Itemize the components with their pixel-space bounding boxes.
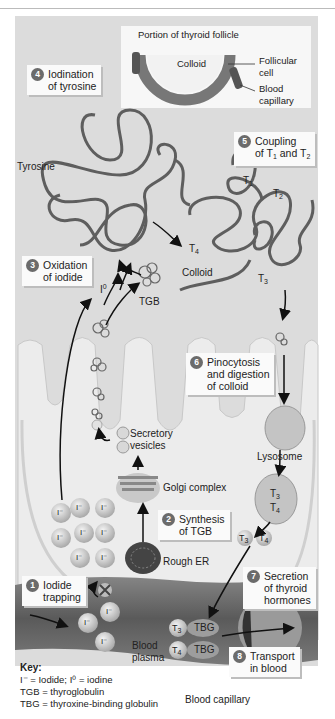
key-line: TBG = thyroxine-binding globulin bbox=[20, 698, 158, 710]
tbg-label-1: TBG bbox=[194, 622, 215, 634]
inset-blood-capillary-label: Blood capillary bbox=[259, 83, 294, 107]
iodide-glyph: I⁻ bbox=[101, 502, 107, 514]
rough-er-label: Rough ER bbox=[163, 556, 209, 568]
step-number-badge: 5 bbox=[238, 135, 251, 148]
step-1-iodide-trapping: 1 Iodidetrapping bbox=[22, 576, 86, 606]
step-number-badge: 2 bbox=[162, 513, 175, 526]
step-8-transport: 8 Transportin blood bbox=[229, 647, 300, 677]
key-line: TGB = thyroglobulin bbox=[20, 686, 158, 698]
golgi-complex bbox=[116, 473, 160, 503]
step-6-pinocytosis: 6 Pinocytosisand digestionof colloid bbox=[186, 353, 274, 395]
iodine-label: I0 bbox=[100, 281, 107, 296]
secretory-vesicle bbox=[117, 427, 129, 439]
iodide-transporter-icon bbox=[98, 583, 112, 597]
thyroid-hormone-synthesis-illustration bbox=[0, 0, 335, 719]
rough-er bbox=[125, 542, 161, 574]
key-line: I⁻ = Iodide; I⁰ = iodine bbox=[20, 674, 158, 686]
blood-plasma-label: Blood plasma bbox=[132, 640, 164, 664]
iodide-glyph: I⁻ bbox=[57, 532, 63, 544]
step-number-badge: 6 bbox=[190, 356, 203, 369]
golgi-complex-label: Golgi complex bbox=[163, 482, 226, 494]
secretory-vesicle bbox=[117, 441, 129, 453]
iodide-glyph: I⁻ bbox=[76, 552, 82, 564]
step-4-iodination: 4 Iodinationof tyrosine bbox=[27, 65, 101, 95]
tyrosine-label: Tyrosine bbox=[17, 161, 55, 173]
step-number-badge: 7 bbox=[247, 570, 260, 583]
t3-blood-label: T3 bbox=[172, 622, 181, 637]
step-2-synthesis: 2 Synthesisof TGB bbox=[158, 510, 230, 540]
thyroglobulin-chain-left bbox=[42, 110, 190, 251]
t3-ball-label: T3 bbox=[239, 532, 248, 547]
step-3-oxidation: 3 Oxidationof iodide bbox=[22, 256, 92, 286]
step-number-badge: 1 bbox=[26, 579, 39, 592]
iodide-glyph: I⁻ bbox=[101, 527, 107, 539]
t3-t4-vesicle-label: T3 T4 bbox=[270, 488, 280, 516]
step-7-secretion: 7 Secretionof thyroidhormones bbox=[243, 567, 316, 609]
legend-key: Key: I⁻ = Iodide; I⁰ = iodine TGB = thyr… bbox=[20, 662, 158, 710]
lysosome bbox=[265, 406, 305, 450]
colloid-label: Colloid bbox=[182, 267, 213, 279]
tbg-label-2: TBG bbox=[194, 644, 215, 656]
inset-title: Portion of thyroid follicle bbox=[138, 29, 239, 41]
inset-colloid-label: Colloid bbox=[177, 58, 206, 70]
t4-blood-label: T4 bbox=[172, 644, 181, 659]
t3-label-colloid: T3 bbox=[258, 273, 268, 288]
step-number-badge: 4 bbox=[31, 68, 44, 81]
inset-follicular-cell-label: Follicular cell bbox=[259, 55, 297, 79]
tgb-label: TGB bbox=[139, 296, 160, 308]
t2-label: T2 bbox=[273, 188, 283, 203]
iodide-glyph: I⁻ bbox=[101, 636, 107, 648]
iodide-glyph: I⁻ bbox=[84, 617, 90, 629]
secretory-vesicles-label: Secretory vesicles bbox=[130, 428, 173, 452]
iodide-glyph: I⁻ bbox=[106, 606, 112, 618]
t4-ball-label: T4 bbox=[259, 532, 268, 547]
t4-label-colloid: T4 bbox=[189, 243, 199, 258]
iodide-glyph: I⁻ bbox=[101, 552, 107, 564]
step-number-badge: 3 bbox=[26, 259, 39, 272]
lysosome-label: Lysosome bbox=[257, 451, 302, 463]
t1-label: T1 bbox=[243, 175, 253, 190]
iodide-glyph: I⁻ bbox=[76, 502, 82, 514]
iodide-glyph: I⁻ bbox=[80, 527, 86, 539]
step-5-coupling: 5 Couplingof T1 and T2 bbox=[234, 132, 315, 166]
key-title: Key: bbox=[20, 662, 158, 674]
iodide-glyph: I⁻ bbox=[57, 507, 63, 519]
blood-capillary-label: Blood capillary bbox=[185, 694, 250, 706]
step-number-badge: 8 bbox=[233, 650, 246, 663]
